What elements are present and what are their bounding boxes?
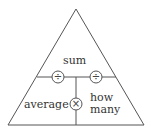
divide-icon-right: ÷ — [90, 71, 102, 83]
average-label: average — [24, 99, 69, 110]
divide-icon-left: ÷ — [52, 71, 64, 83]
how-many-label-line1: how — [90, 92, 113, 103]
formula-triangle — [0, 0, 151, 134]
how-many-label-line2: many — [90, 104, 120, 115]
sum-label: sum — [63, 55, 86, 66]
multiply-icon: × — [70, 98, 82, 110]
